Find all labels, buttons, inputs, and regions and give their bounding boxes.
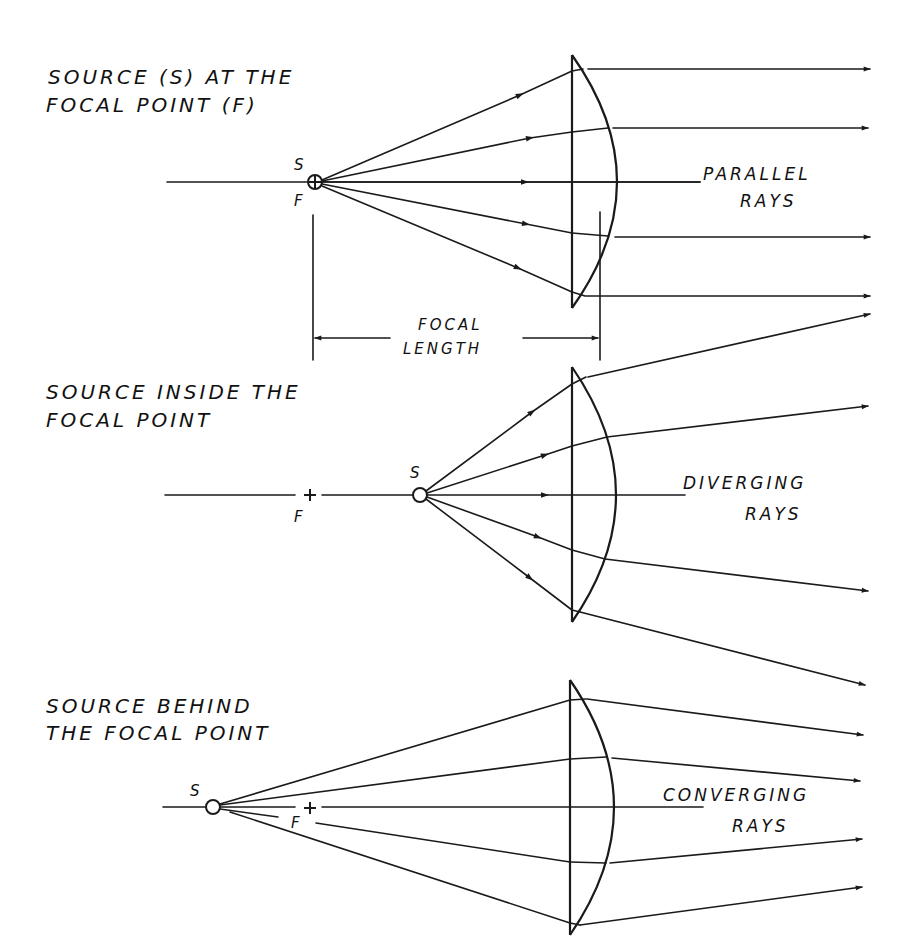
dimension-label-line2: LENGTH — [403, 340, 482, 358]
source-label: S — [190, 782, 203, 800]
ray — [427, 497, 572, 550]
ray-converging-4 — [610, 839, 862, 863]
ray — [220, 759, 570, 805]
section-inside-title-line2: FOCAL POINT — [46, 408, 212, 432]
ray — [322, 186, 572, 292]
result-label-line1: PARALLEL — [703, 164, 811, 184]
ray-converging-5 — [580, 887, 862, 925]
section-behind: SOURCE BEHIND THE FOCAL POINT S F CONVER — [46, 680, 863, 935]
result-label-line2: RAYS — [732, 816, 789, 836]
ray — [426, 499, 572, 610]
section-focal: SOURCE (S) AT THE FOCAL POINT (F) S F — [46, 55, 870, 360]
focal-point-cross-icon — [304, 802, 316, 814]
ray — [220, 700, 570, 804]
section-inside: SOURCE INSIDE THE FOCAL POINT F S DIVERG… — [46, 314, 870, 685]
ray — [220, 809, 278, 817]
ray — [230, 812, 570, 923]
dimension-label-line1: FOCAL — [418, 316, 483, 334]
result-label-line2: RAYS — [740, 191, 797, 211]
source-icon — [413, 488, 427, 502]
source-label: S — [410, 464, 423, 482]
source-icon — [206, 800, 220, 814]
section-inside-title-line1: SOURCE INSIDE THE — [46, 380, 301, 404]
result-label-line2: RAYS — [745, 504, 802, 524]
section-focal-title-line1: SOURCE (S) AT THE — [48, 65, 294, 89]
section-focal-title-line2: FOCAL POINT (F) — [46, 93, 258, 117]
ray-converging-2 — [612, 758, 860, 781]
ray-converging-1 — [587, 699, 863, 735]
ray — [322, 71, 572, 180]
ray — [427, 446, 572, 493]
ray-diverging-2 — [607, 406, 868, 437]
ray-diverging-4 — [605, 559, 868, 591]
ray — [316, 823, 570, 862]
result-label-line1: DIVERGING — [683, 473, 806, 493]
source-label: S — [294, 156, 307, 174]
diagram-canvas: SOURCE (S) AT THE FOCAL POINT (F) S F — [0, 0, 910, 947]
focal-point-label: F — [294, 508, 306, 526]
focal-point-cross-icon — [304, 489, 316, 501]
lens-ray-diagram: SOURCE (S) AT THE FOCAL POINT (F) S F — [0, 0, 910, 947]
section-behind-title-line2: THE FOCAL POINT — [46, 721, 271, 745]
focal-point-label: F — [291, 814, 303, 832]
ray — [322, 132, 572, 181]
ray — [426, 384, 572, 491]
ray-diverging-1 — [588, 314, 870, 377]
ray-diverging-5 — [580, 612, 865, 685]
focal-point-label: F — [294, 192, 306, 210]
ray — [322, 184, 572, 233]
source-focal-icon — [308, 175, 322, 189]
result-label-line1: CONVERGING — [663, 785, 809, 805]
section-behind-title-line1: SOURCE BEHIND — [46, 694, 253, 718]
